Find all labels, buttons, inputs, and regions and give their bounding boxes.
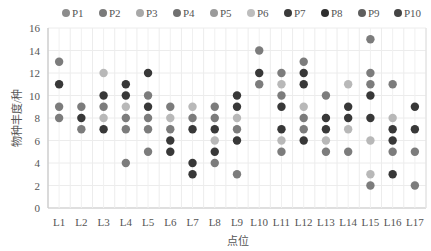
y-tick-label: 0	[35, 202, 41, 214]
data-point	[411, 181, 419, 189]
data-point	[233, 114, 241, 122]
data-point	[300, 58, 308, 66]
data-point	[122, 91, 130, 99]
data-point	[77, 114, 85, 122]
data-point	[122, 103, 130, 111]
data-point	[144, 148, 152, 156]
data-point	[300, 125, 308, 133]
data-point	[211, 103, 219, 111]
x-tick-label: L12	[295, 216, 313, 228]
x-tick-label: L7	[186, 216, 199, 228]
data-point	[188, 114, 196, 122]
data-point	[122, 159, 130, 167]
data-point	[122, 80, 130, 88]
x-tick-label: L15	[362, 216, 380, 228]
x-tick-label: L4	[120, 216, 133, 228]
data-point	[99, 69, 107, 77]
data-point	[211, 125, 219, 133]
y-tick-label: 4	[35, 157, 41, 169]
x-tick-label: L16	[384, 216, 402, 228]
data-point	[211, 114, 219, 122]
data-point	[211, 159, 219, 167]
data-point	[188, 125, 196, 133]
data-point	[300, 69, 308, 77]
y-tick-label: 2	[35, 180, 41, 192]
x-tick-label: L10	[250, 216, 268, 228]
data-point	[388, 170, 396, 178]
y-tick-label: 10	[29, 90, 41, 102]
data-point	[344, 103, 352, 111]
data-point	[233, 170, 241, 178]
data-point	[366, 35, 374, 43]
data-point	[300, 114, 308, 122]
data-point	[188, 159, 196, 167]
data-point	[322, 114, 330, 122]
x-tick-label: L6	[164, 216, 177, 228]
data-point	[99, 91, 107, 99]
data-point	[233, 103, 241, 111]
x-tick-label: L3	[97, 216, 110, 228]
data-point	[277, 80, 285, 88]
data-point	[55, 58, 63, 66]
data-point	[166, 103, 174, 111]
data-point	[277, 125, 285, 133]
data-point	[411, 125, 419, 133]
x-tick-label: L1	[53, 216, 65, 228]
data-point	[255, 46, 263, 54]
data-point	[322, 148, 330, 156]
data-point	[166, 136, 174, 144]
scatter-plot: 0246810121416L1L2L3L4L5L6L7L8L9L10L11L12…	[0, 0, 431, 251]
data-point	[388, 136, 396, 144]
y-tick-label: 6	[35, 135, 41, 147]
data-point	[366, 114, 374, 122]
x-tick-label: L8	[209, 216, 222, 228]
data-point	[77, 103, 85, 111]
data-point	[388, 125, 396, 133]
data-point	[188, 170, 196, 178]
data-point	[255, 80, 263, 88]
x-tick-label: L9	[231, 216, 244, 228]
data-point	[322, 91, 330, 99]
data-point	[277, 136, 285, 144]
y-axis-title: 物种丰度/种	[8, 88, 24, 148]
data-point	[122, 114, 130, 122]
data-point	[166, 125, 174, 133]
x-axis-title: 点位	[0, 232, 431, 248]
data-point	[300, 80, 308, 88]
data-point	[277, 148, 285, 156]
y-tick-label: 12	[29, 67, 40, 79]
data-point	[388, 148, 396, 156]
data-point	[366, 181, 374, 189]
data-point	[255, 69, 263, 77]
x-tick-label: L14	[339, 216, 357, 228]
data-point	[277, 103, 285, 111]
data-point	[344, 148, 352, 156]
data-point	[366, 80, 374, 88]
data-point	[99, 125, 107, 133]
data-point	[77, 125, 85, 133]
data-point	[144, 69, 152, 77]
data-point	[188, 103, 196, 111]
data-point	[233, 136, 241, 144]
data-point	[55, 80, 63, 88]
y-tick-label: 14	[29, 45, 41, 57]
data-point	[211, 136, 219, 144]
data-point	[322, 125, 330, 133]
y-tick-label: 8	[35, 112, 41, 124]
x-tick-label: L17	[406, 216, 424, 228]
data-point	[322, 136, 330, 144]
data-point	[144, 114, 152, 122]
data-point	[144, 103, 152, 111]
x-tick-label: L5	[142, 216, 155, 228]
data-point	[366, 136, 374, 144]
y-tick-label: 16	[29, 22, 41, 34]
data-point	[366, 91, 374, 99]
x-tick-label: L2	[75, 216, 87, 228]
data-point	[211, 148, 219, 156]
data-point	[388, 80, 396, 88]
data-point	[366, 69, 374, 77]
data-point	[344, 114, 352, 122]
data-point	[344, 80, 352, 88]
data-point	[411, 148, 419, 156]
data-point	[99, 103, 107, 111]
